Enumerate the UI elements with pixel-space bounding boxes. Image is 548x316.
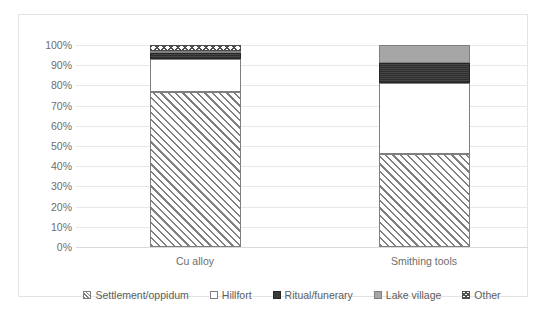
segment-lake-village[interactable] [150, 51, 241, 53]
legend-swatch-icon-hillfort [210, 291, 218, 299]
y-tick-20: 20% [26, 202, 72, 212]
legend-swatch-icon-lake-village [374, 291, 382, 299]
segment-ritual-funerary[interactable] [150, 53, 241, 59]
segment-settlement-oppidum[interactable] [150, 92, 241, 248]
legend-item-hillfort[interactable]: Hillfort [210, 289, 252, 301]
y-axis-tick-labels: 100% 90% 80% 70% 60% 50% 40% 30% 20% 10%… [22, 45, 72, 247]
legend-label-lake-village: Lake village [386, 289, 441, 301]
y-tick-0: 0% [26, 242, 72, 252]
segment-hillfort[interactable] [150, 59, 241, 91]
segment-settlement-oppidum[interactable] [379, 154, 470, 247]
legend-item-settlement-oppidum[interactable]: Settlement/oppidum [83, 289, 188, 301]
segment-lake-village[interactable] [379, 45, 470, 63]
chart-container: 100% 90% 80% 70% 60% 50% 40% 30% 20% 10%… [18, 14, 528, 297]
legend-item-other[interactable]: Other [462, 289, 500, 301]
legend-swatch-icon-settlement-oppidum [83, 291, 91, 299]
y-tick-90: 90% [26, 60, 72, 70]
legend-label-settlement-oppidum: Settlement/oppidum [95, 289, 188, 301]
segment-hillfort[interactable] [379, 83, 470, 154]
chart-legend: Settlement/oppidum Hillfort Ritual/funer… [37, 285, 547, 305]
legend-swatch-icon-ritual-funerary [273, 291, 281, 299]
legend-label-other: Other [474, 289, 500, 301]
plot-area [76, 45, 528, 247]
x-axis-tick-labels: Cu alloy Smithing tools [76, 247, 528, 269]
legend-item-ritual-funerary[interactable]: Ritual/funerary [273, 289, 353, 301]
legend-item-lake-village[interactable]: Lake village [374, 289, 441, 301]
x-tick-cu-alloy: Cu alloy [115, 255, 275, 267]
y-tick-10: 10% [26, 222, 72, 232]
y-tick-40: 40% [26, 161, 72, 171]
x-tick-smithing-tools: Smithing tools [344, 255, 504, 267]
legend-swatch-icon-other [462, 291, 470, 299]
segment-other[interactable] [150, 45, 241, 51]
y-tick-70: 70% [26, 101, 72, 111]
y-tick-80: 80% [26, 80, 72, 90]
legend-label-ritual-funerary: Ritual/funerary [285, 289, 353, 301]
y-tick-60: 60% [26, 121, 72, 131]
legend-label-hillfort: Hillfort [222, 289, 252, 301]
y-tick-100: 100% [26, 40, 72, 50]
y-tick-30: 30% [26, 181, 72, 191]
segment-ritual-funerary[interactable] [379, 63, 470, 83]
y-tick-50: 50% [26, 141, 72, 151]
